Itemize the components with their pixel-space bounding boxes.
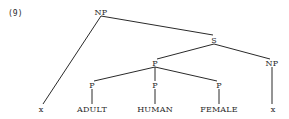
tree-edge [155, 67, 217, 81]
tree-edge [94, 67, 155, 81]
leaf-female: FEMALE [200, 105, 238, 114]
leaf-human: HUMAN [137, 105, 173, 114]
node-s: S [211, 36, 217, 45]
node-np-right: NP [266, 59, 279, 68]
node-p-mid: P [152, 59, 158, 68]
node-p-adult: P [89, 81, 95, 90]
syntax-tree [0, 0, 289, 119]
node-p-female: P [216, 81, 222, 90]
leaf-adult: ADULT [77, 105, 107, 114]
leaf-x-left: x [39, 105, 44, 114]
tree-edge [214, 44, 270, 59]
node-p-human: P [152, 81, 158, 90]
node-np-root: NP [95, 8, 108, 17]
tree-edge [157, 44, 214, 59]
leaf-x-right: x [271, 105, 276, 114]
tree-edge [101, 16, 213, 35]
